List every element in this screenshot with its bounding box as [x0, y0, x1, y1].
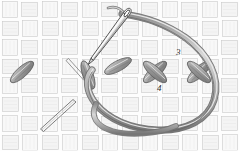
callout-label-3: 3	[176, 48, 181, 57]
cross-stitch-illustration	[0, 0, 240, 151]
callout-label-4: 4	[157, 84, 162, 93]
figure-canvas: 3 4	[0, 0, 240, 151]
